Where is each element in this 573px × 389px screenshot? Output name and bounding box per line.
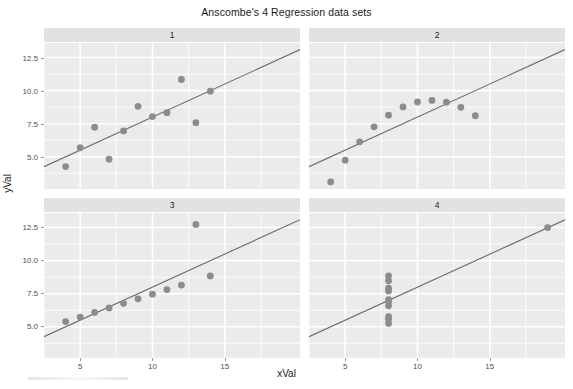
facet-strip-label: 1 <box>44 28 300 42</box>
data-point <box>457 104 464 111</box>
y-axis-label: yVal <box>2 164 13 204</box>
y-tick-label: 12.5 <box>22 53 38 62</box>
data-point <box>385 277 392 284</box>
data-point <box>472 112 479 119</box>
data-point <box>135 295 142 302</box>
facet-panel-2: 2 <box>309 28 565 189</box>
y-tick-label: 10.0 <box>22 256 38 265</box>
data-point <box>429 97 436 104</box>
x-tick-label: 15 <box>220 362 229 371</box>
facet-strip-2: 2 <box>309 28 565 42</box>
x-tick-label: 5 <box>343 362 347 371</box>
data-point <box>385 298 392 305</box>
plot-panel-1 <box>44 43 300 189</box>
data-point <box>62 163 69 170</box>
y-tick-label: 5.0 <box>27 322 38 331</box>
facet-strip-label: 3 <box>44 198 300 212</box>
x-tick-label: 5 <box>78 362 82 371</box>
plot-panel-3 <box>44 213 300 359</box>
facet-strip-label: 2 <box>309 28 565 42</box>
facet-panel-4: 4 <box>309 198 565 359</box>
x-tick-mark <box>345 358 346 361</box>
y-tick-label: 7.5 <box>27 119 38 128</box>
data-point <box>207 88 214 95</box>
facet-panel-1: 1 <box>44 28 300 189</box>
data-point <box>207 272 214 279</box>
y-tick-label: 10.0 <box>22 86 38 95</box>
data-point <box>164 286 171 293</box>
data-point <box>178 281 185 288</box>
data-point <box>443 99 450 106</box>
data-point <box>371 123 378 130</box>
facet-strip-3: 3 <box>44 198 300 212</box>
plot-panel-4 <box>309 213 565 359</box>
regression-line <box>309 50 565 167</box>
y-tick-label: 5.0 <box>27 152 38 161</box>
data-point <box>385 284 392 291</box>
data-point <box>120 128 127 135</box>
data-point <box>106 156 113 163</box>
data-point <box>77 313 84 320</box>
data-point <box>106 304 113 311</box>
data-point <box>62 318 69 325</box>
data-point <box>149 113 156 120</box>
page-title: Anscombe's 4 Regression data sets <box>0 6 573 18</box>
x-tick-mark <box>152 358 153 361</box>
chart-root: Anscombe's 4 Regression data sets yVal x… <box>0 0 573 389</box>
facet-panel-3: 3 <box>44 198 300 359</box>
facet-strip-4: 4 <box>309 198 565 212</box>
data-point <box>149 290 156 297</box>
data-point <box>414 99 421 106</box>
x-tick-mark <box>80 358 81 361</box>
data-point <box>327 178 334 185</box>
data-point <box>544 224 551 231</box>
data-point <box>91 309 98 316</box>
data-point <box>400 103 407 110</box>
facet-grid: 1234 <box>44 28 565 358</box>
regression-line <box>309 219 565 336</box>
page-edge-artifact <box>28 377 128 380</box>
x-tick-mark <box>225 358 226 361</box>
y-tick-label: 7.5 <box>27 289 38 298</box>
data-point <box>356 138 363 145</box>
facet-strip-label: 4 <box>309 198 565 212</box>
data-point <box>77 144 84 151</box>
data-point <box>385 112 392 119</box>
data-point <box>192 119 199 126</box>
data-point <box>192 220 199 227</box>
data-point <box>120 299 127 306</box>
data-point <box>164 109 171 116</box>
data-point <box>385 315 392 322</box>
data-point <box>91 124 98 131</box>
x-tick-mark <box>490 358 491 361</box>
x-tick-label: 10 <box>148 362 157 371</box>
x-tick-label: 15 <box>485 362 494 371</box>
data-point <box>135 103 142 110</box>
x-tick-mark <box>417 358 418 361</box>
data-point <box>342 157 349 164</box>
x-tick-label: 10 <box>413 362 422 371</box>
data-point <box>178 76 185 83</box>
y-tick-label: 12.5 <box>22 223 38 232</box>
plot-panel-2 <box>309 43 565 189</box>
facet-strip-1: 1 <box>44 28 300 42</box>
